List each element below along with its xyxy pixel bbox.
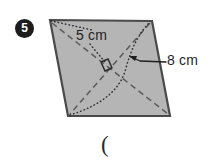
parallelogram-diagram [0, 0, 220, 162]
side-length-label: 5 cm [76, 27, 107, 43]
height-length-label: 8 cm [167, 52, 198, 68]
answer-open-paren: ( [101, 132, 109, 158]
worksheet-problem-figure: 5 5 cm 8 cm ( [0, 0, 220, 162]
